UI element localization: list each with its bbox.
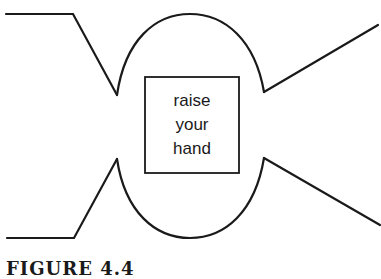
top-right-line	[264, 25, 378, 92]
figure-caption: FIGURE 4.4	[6, 258, 135, 279]
top-left-line	[6, 14, 117, 95]
box-text-line-3: hand	[173, 137, 211, 161]
bottom-left-line	[7, 159, 117, 238]
center-box-label: raise your hand	[146, 78, 238, 172]
bottom-right-line	[264, 158, 380, 225]
box-text-line-2: your	[175, 113, 208, 137]
box-text-line-1: raise	[174, 89, 211, 113]
